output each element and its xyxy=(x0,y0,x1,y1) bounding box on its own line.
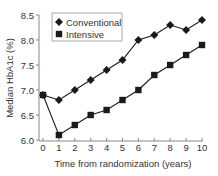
y-axis-label: Median HbA1c (%) xyxy=(4,38,15,118)
x-tick-label: 3 xyxy=(88,142,93,153)
y-tick-label: 8.5 xyxy=(21,10,34,21)
x-tick-label: 6 xyxy=(136,142,141,153)
square-marker xyxy=(199,42,205,48)
diamond-marker xyxy=(198,16,206,24)
legend: ConventionalIntensive xyxy=(52,13,122,41)
diamond-marker xyxy=(55,96,63,104)
hba1c-line-chart: 6.06.57.07.58.08.5012345678910 Conventio… xyxy=(0,0,218,176)
diamond-marker xyxy=(87,76,95,84)
y-tick-label: 8.0 xyxy=(21,35,34,46)
square-marker xyxy=(56,132,62,138)
square-marker xyxy=(183,52,189,58)
square-marker xyxy=(119,97,125,103)
x-tick-label: 5 xyxy=(120,142,125,153)
diamond-marker xyxy=(71,86,79,94)
x-tick-label: 2 xyxy=(72,142,77,153)
square-legend-icon xyxy=(56,31,62,37)
square-marker xyxy=(135,87,141,93)
diamond-marker xyxy=(166,21,174,29)
y-tick-label: 7.0 xyxy=(21,85,34,96)
x-tick-label: 9 xyxy=(183,142,188,153)
y-tick-label: 7.5 xyxy=(21,60,34,71)
diamond-marker xyxy=(103,66,111,74)
diamond-marker xyxy=(150,31,158,39)
square-marker xyxy=(72,122,78,128)
legend-label-conventional: Conventional xyxy=(66,17,121,28)
diamond-marker xyxy=(182,26,190,34)
square-marker xyxy=(167,62,173,68)
x-tick-label: 10 xyxy=(197,142,208,153)
y-tick-label: 6.0 xyxy=(21,135,34,146)
square-marker xyxy=(40,92,46,98)
square-marker xyxy=(151,72,157,78)
x-tick-label: 1 xyxy=(56,142,61,153)
square-marker xyxy=(88,112,94,118)
legend-label-intensive: Intensive xyxy=(66,29,104,40)
square-marker xyxy=(103,107,109,113)
y-tick-label: 6.5 xyxy=(21,110,34,121)
x-tick-label: 4 xyxy=(104,142,109,153)
x-tick-label: 8 xyxy=(168,142,173,153)
x-axis-label: Time from randomization (years) xyxy=(55,158,192,169)
x-tick-label: 7 xyxy=(152,142,157,153)
x-tick-label: 0 xyxy=(40,142,45,153)
